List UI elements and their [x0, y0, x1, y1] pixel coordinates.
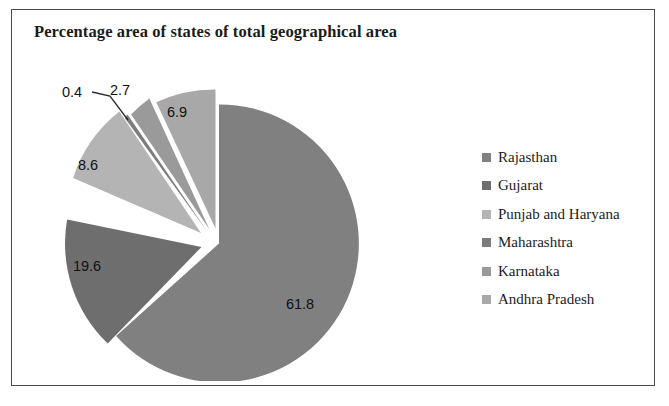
chart-legend: Rajasthan Gujarat Punjab and Haryana Mah…	[482, 143, 652, 314]
legend-swatch-icon	[482, 267, 491, 276]
pie-chart-figure: Percentage area of states of total geogr…	[0, 0, 669, 406]
legend-item-andhra-pradesh[interactable]: Andhra Pradesh	[482, 286, 652, 315]
legend-swatch-icon	[482, 153, 491, 162]
slice-label-gujarat: 19.6	[73, 258, 101, 274]
legend-label: Andhra Pradesh	[498, 291, 594, 308]
legend-swatch-icon	[482, 238, 491, 247]
legend-swatch-icon	[482, 210, 491, 219]
chart-title: Percentage area of states of total geogr…	[34, 22, 397, 42]
slice-label-andhra-pradesh: 6.9	[167, 104, 187, 120]
legend-item-gujarat[interactable]: Gujarat	[482, 172, 652, 201]
pie-plot-area: 61.8 19.6 8.6 0.4 2.7 6.9	[14, 56, 444, 381]
legend-item-punjab-and-haryana[interactable]: Punjab and Haryana	[482, 200, 652, 229]
slice-label-karnataka: 2.7	[110, 82, 130, 98]
legend-label: Rajasthan	[498, 149, 557, 166]
slice-label-maharashtra: 0.4	[62, 84, 82, 100]
legend-label: Karnataka	[498, 263, 560, 280]
legend-item-maharashtra[interactable]: Maharashtra	[482, 229, 652, 258]
legend-label: Gujarat	[498, 177, 543, 194]
slice-label-rajasthan: 61.8	[286, 296, 314, 312]
legend-item-rajasthan[interactable]: Rajasthan	[482, 143, 652, 172]
pie-svg: 61.8 19.6 8.6 0.4 2.7 6.9	[14, 56, 444, 381]
legend-swatch-icon	[482, 181, 491, 190]
legend-item-karnataka[interactable]: Karnataka	[482, 257, 652, 286]
legend-label: Maharashtra	[498, 234, 573, 251]
slice-label-punjab-haryana: 8.6	[78, 157, 98, 173]
legend-swatch-icon	[482, 295, 491, 304]
legend-label: Punjab and Haryana	[498, 206, 620, 223]
